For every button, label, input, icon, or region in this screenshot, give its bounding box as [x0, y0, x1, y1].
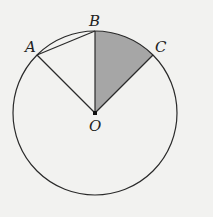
label-o: O [89, 117, 101, 135]
shaded-sector-boc [95, 31, 153, 113]
label-b: B [88, 12, 100, 30]
chord-ab [37, 31, 95, 55]
label-c: C [155, 38, 167, 56]
circle-diagram: A B C O [0, 0, 213, 217]
segment-oa [37, 55, 95, 113]
center-point-o [93, 111, 97, 115]
label-a: A [23, 38, 36, 56]
